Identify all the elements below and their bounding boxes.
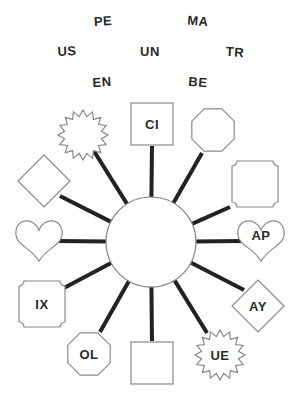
connector-line — [174, 279, 208, 333]
node-heart: AP — [238, 221, 284, 261]
node-label: CI — [145, 117, 159, 132]
connector-line — [92, 148, 128, 206]
connector-line — [60, 196, 113, 223]
connector-line — [56, 241, 108, 242]
connector-line — [194, 241, 243, 242]
node-label: IX — [35, 297, 48, 312]
node-octagon — [192, 109, 234, 151]
node-label: UE — [210, 348, 229, 363]
hub-circle — [106, 197, 196, 287]
diagram: CIAPIXAYOLUE — [0, 0, 294, 394]
node-square: CI — [131, 103, 173, 145]
node-label: OL — [79, 347, 98, 362]
connector-line — [151, 146, 152, 199]
node-notched-square: IX — [19, 281, 65, 327]
node-octagon: OL — [68, 333, 110, 375]
heart-shape — [16, 221, 62, 261]
connector-line — [189, 262, 244, 290]
octagon-shape — [192, 109, 234, 151]
connector-line — [190, 207, 230, 225]
node-heart — [16, 221, 62, 261]
connector-line — [172, 153, 202, 205]
node-notched-square — [232, 161, 278, 207]
starburst-shape — [58, 110, 108, 160]
notched-square-shape — [232, 161, 278, 207]
connector-line — [62, 262, 113, 289]
connector-line — [100, 279, 130, 332]
square-shape — [131, 342, 173, 384]
node-starburst: UE — [195, 330, 245, 380]
node-square — [131, 342, 173, 384]
node-label: AP — [251, 228, 270, 243]
connector-line — [151, 285, 152, 341]
node-label: AY — [249, 299, 267, 314]
node-starburst — [58, 110, 108, 160]
